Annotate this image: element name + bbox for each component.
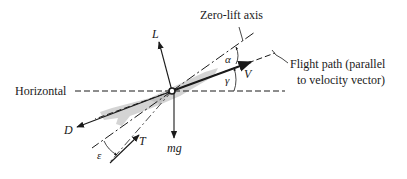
gamma-label: γ (225, 74, 230, 86)
lift-vector-arrow (159, 42, 172, 91)
lift-label: L (151, 27, 159, 41)
weight-label: mg (167, 141, 182, 155)
thrust-label: T (139, 134, 147, 148)
horizontal-label: Horizontal (15, 84, 67, 98)
velocity-label: V (244, 67, 253, 81)
alpha-label: α (225, 53, 231, 65)
velocity-vector-arrow (172, 62, 251, 91)
alpha-angle-arc (236, 47, 238, 64)
epsilon-label: ε (97, 149, 102, 161)
thrust-vector-arrow (110, 135, 139, 163)
aircraft-force-diagram: Zero-lift axis Flight path (parallel to … (0, 0, 407, 179)
gamma-angle-arc (234, 68, 236, 91)
zero-lift-axis-label: Zero-lift axis (200, 8, 263, 22)
epsilon-angle-arc (104, 141, 117, 155)
flight-path-label-line1: Flight path (parallel (290, 57, 386, 71)
center-of-gravity-marker (169, 88, 175, 94)
aircraft-silhouette (100, 68, 218, 126)
drag-label: D (63, 123, 73, 137)
flight-path-label-line2: to velocity vector) (297, 73, 385, 87)
